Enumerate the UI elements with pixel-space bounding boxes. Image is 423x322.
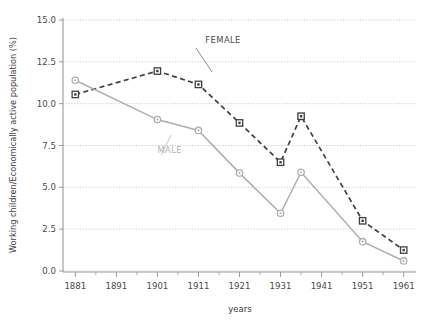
marker-male-1911-core [197, 129, 199, 131]
marker-male-1921-core [238, 172, 240, 174]
marker-male-1951-core [362, 241, 364, 243]
line-chart: Working children/Economically active pop… [0, 0, 423, 322]
x-tick-label: 1951 [352, 281, 374, 291]
x-tick-label: 1881 [64, 281, 86, 291]
marker-male-1881-core [74, 79, 76, 81]
y-tick-label: 15.0 [37, 15, 56, 25]
marker-male-1931-core [279, 212, 281, 214]
y-axis-ticks: 0.02.55.07.510.012.515.0 [37, 15, 63, 276]
marker-female-1881-core [74, 93, 76, 95]
y-tick-label: 7.5 [42, 141, 56, 151]
x-tick-label: 1921 [229, 281, 251, 291]
y-tick-label: 12.5 [37, 57, 56, 67]
x-tick-label: 1891 [105, 281, 127, 291]
series-annotation-male: MALE [157, 145, 182, 155]
y-tick-label: 10.0 [37, 99, 56, 109]
x-axis-ticks: 188118911901191119211931194119511961 [64, 272, 414, 291]
marker-male-1901-core [156, 118, 158, 120]
series-line-female [75, 71, 403, 250]
x-tick-label: 1901 [146, 281, 168, 291]
y-tick-label: 2.5 [42, 224, 56, 234]
chart-container: Working children/Economically active pop… [0, 0, 423, 322]
x-tick-label: 1941 [311, 281, 333, 291]
x-tick-label: 1961 [393, 281, 415, 291]
y-tick-label: 0.0 [42, 266, 56, 276]
x-axis-title: years [228, 304, 252, 314]
gridlines [63, 20, 416, 271]
series-lines [75, 71, 403, 261]
marker-female-1961-core [402, 249, 404, 251]
x-tick-label: 1911 [188, 281, 210, 291]
marker-female-1921-core [238, 122, 240, 124]
marker-female-1911-core [197, 83, 199, 85]
marker-female-1931-core [279, 161, 281, 163]
marker-male-1961-core [403, 260, 405, 262]
marker-female-1951-core [361, 220, 363, 222]
marker-female-1936-core [300, 115, 302, 117]
annotation-leaders [161, 48, 212, 155]
marker-female-1901-core [156, 70, 158, 72]
series-annotation-female: FEMALE [205, 35, 240, 45]
y-axis-title: Working children/Economically active pop… [8, 37, 18, 253]
female-leader-line [196, 48, 212, 72]
y-tick-label: 5.0 [42, 182, 56, 192]
marker-male-1936-core [300, 171, 302, 173]
x-tick-label: 1931 [270, 281, 292, 291]
